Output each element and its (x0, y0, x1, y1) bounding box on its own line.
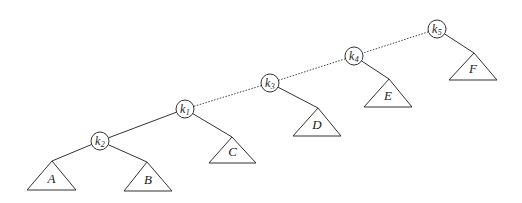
node-k5: k5 (428, 20, 446, 38)
subtree-label: A (47, 171, 56, 186)
node-subscript: 4 (355, 55, 359, 64)
edges-layer (52, 32, 474, 162)
subtree-label: C (228, 144, 237, 159)
edge-k3-D (278, 87, 318, 108)
subtree-C: C (209, 137, 256, 163)
subtree-F: F (449, 53, 497, 80)
edge-k5-F (445, 34, 474, 53)
node-k1: k1 (176, 100, 194, 118)
subtree-label: E (383, 88, 392, 103)
edge-k2-B (108, 145, 147, 162)
node-subscript: 3 (270, 82, 275, 91)
edge-k2-A (52, 144, 92, 161)
edge-k3-k1 (194, 86, 262, 107)
node-k3: k3 (261, 74, 279, 92)
edge-k4-E (362, 61, 389, 79)
subtree-label: F (468, 61, 478, 76)
subtree-D: D (293, 108, 341, 136)
node-k2: k2 (91, 132, 109, 150)
tree-diagram: ABCDEF k5k4k3k1k2 (0, 0, 522, 203)
edge-k4-k3 (279, 59, 346, 80)
node-subscript: 5 (438, 28, 442, 37)
subtree-label: B (144, 172, 152, 187)
subtree-E: E (364, 79, 412, 107)
subtree-label: D (311, 117, 322, 132)
node-subscript: 2 (101, 140, 105, 149)
node-k4: k4 (345, 47, 363, 65)
edge-k1-C (193, 114, 232, 137)
node-subscript: 1 (186, 108, 190, 117)
subtree-B: B (124, 162, 172, 191)
edge-k5-k4 (363, 32, 429, 53)
subtrees-layer: ABCDEF (27, 53, 497, 191)
edge-k1-k2 (108, 112, 176, 138)
subtree-A: A (27, 161, 76, 190)
